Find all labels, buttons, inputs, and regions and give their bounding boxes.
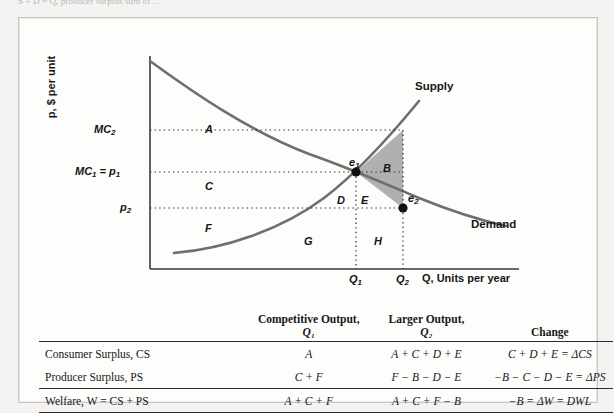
column-header-larger-output-line1: Larger Output,: [389, 313, 465, 325]
supply-curve-label: Supply: [415, 80, 453, 92]
table-row: Consumer Surplus, CS A A + C + D + E C +…: [39, 342, 613, 366]
region-label-b: B: [383, 162, 391, 174]
cell-cs-q1: A: [251, 342, 366, 366]
column-header-competitive-output-line1: Competitive Output,: [258, 313, 360, 325]
region-label-a: A: [205, 123, 213, 135]
row-label-producer-surplus: Producer Surplus, PS: [39, 365, 251, 389]
y-tick-mc2: MC2: [94, 123, 116, 137]
region-label-f: F: [205, 222, 212, 234]
table-element: Competitive Output, Q₁ Larger Output, Q₂…: [39, 313, 613, 413]
row-label-consumer-surplus: Consumer Surplus, CS: [39, 342, 251, 366]
point-label-e1: e1: [349, 156, 360, 170]
region-label-g: G: [304, 235, 313, 247]
row-label-welfare: Welfare, W = CS + PS: [39, 389, 251, 413]
welfare-summary-table: Competitive Output, Q₁ Larger Output, Q₂…: [39, 313, 613, 413]
point-label-e2: e2: [408, 192, 419, 206]
cell-w-q2: A + C + F − B: [366, 389, 487, 413]
region-label-h: H: [374, 235, 382, 247]
table-header-row: Competitive Output, Q₁ Larger Output, Q₂…: [39, 313, 613, 342]
y-tick-mc1-p1: MC1 = p1: [75, 165, 120, 179]
region-label-c: C: [205, 180, 213, 192]
cell-ps-change: −B − C − D − E = ΔPS: [487, 365, 613, 389]
region-label-d: D: [337, 194, 345, 206]
column-header-change: Change: [487, 313, 613, 342]
column-header-larger-output-line2: Q₂: [420, 326, 432, 338]
cutoff-text-above-figure: S + D = Q, producer surplus sum of ...: [18, 0, 438, 6]
table-row: Welfare, W = CS + PS A + C + F A + C + F…: [39, 389, 613, 413]
column-header-competitive-output: Competitive Output, Q₁: [251, 313, 366, 342]
cell-w-q1: A + C + F: [251, 389, 366, 413]
column-header-larger-output: Larger Output, Q₂: [366, 313, 487, 342]
cell-cs-change: C + D + E = ΔCS: [487, 342, 613, 366]
cell-ps-q1: C + F: [251, 365, 366, 389]
demand-curve-label: Demand: [471, 218, 516, 230]
column-header-change-line1: Change: [531, 326, 569, 338]
region-label-e: E: [361, 194, 368, 206]
figure-panel: p, $ per unit Q, Units per year MC2 MC1 …: [18, 17, 598, 403]
x-axis-label: Q, Units per year: [422, 272, 510, 284]
table-row: Producer Surplus, PS C + F F − B − D − E…: [39, 365, 613, 389]
cell-ps-q2: F − B − D − E: [366, 365, 487, 389]
y-axis-label: p, $ per unit: [45, 39, 57, 135]
point-e2: [398, 203, 407, 212]
y-tick-p2: p2: [120, 201, 131, 215]
x-tick-q1: Q1: [349, 273, 362, 287]
cell-w-change: −B = ΔW = DWL: [487, 389, 613, 413]
cell-cs-q2: A + C + D + E: [366, 342, 487, 366]
column-header-competitive-output-line2: Q₁: [303, 326, 315, 338]
column-header-blank: [39, 313, 251, 342]
x-tick-q2: Q2: [396, 273, 409, 287]
